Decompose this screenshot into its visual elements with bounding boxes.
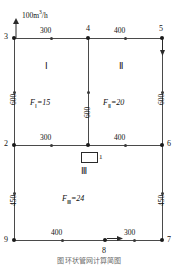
length-label-center-upper: 600 [84,107,92,118]
length-label-top-right: 400 [114,27,125,35]
node-6 [160,143,164,147]
node-label-4: 4 [86,25,90,33]
pump-symbol [81,152,98,163]
length-label-left-upper: 600 [10,94,18,105]
pipe-tick-top-left [50,37,53,40]
loop-flow-value-3: FⅢ=24 [62,194,84,207]
length-label-bottom-right: 300 [124,229,135,237]
figure-caption: 图 环状管网计算简图 [0,257,178,266]
outflow-arrow-node-5 [158,40,167,56]
pipe-tick-center-upper [87,91,90,94]
node-label-7: 7 [167,236,171,244]
pump-label: 1 [99,154,103,161]
loop-flow-value-2: FⅡ=20 [103,98,124,111]
pipe-tick-bottom-right [133,239,136,242]
node-label-2: 2 [4,140,8,148]
loop-numeral-3: Ⅲ [81,167,87,176]
loop-numeral-1: Ⅰ [45,62,48,71]
pipe-5-6-7-right [162,38,163,240]
node-label-6: 6 [167,140,171,148]
node-4 [86,36,90,40]
length-label-middle-right: 400 [114,134,125,142]
loop-flow-value-1: FⅠ=15 [30,98,50,111]
pipe-tick-top-right [124,37,127,40]
pipe-tick-bottom-left [61,239,64,242]
outflow-arrow-node-8 [107,234,123,243]
length-label-left-lower: 450 [10,195,18,206]
pipe-network-diagram: 100m3/h 3 4 5 2 6 9 8 7 300 400 300 400 … [0,0,178,266]
node-label-8: 8 [102,247,106,255]
flow-unit-label: 100m3/h [22,8,48,20]
pipe-9-8-7-bottom [14,240,162,241]
pipe-3-2-9-left [14,38,15,240]
node-label-9: 9 [4,236,8,244]
node-1 [86,143,90,147]
length-label-right-lower: 450 [158,195,166,206]
length-label-right-upper: 600 [158,94,166,105]
node-9 [12,238,16,242]
loop-numeral-2: Ⅱ [119,62,123,71]
length-label-bottom-left: 400 [51,229,62,237]
node-label-5: 5 [159,25,163,33]
pipe-tick-middle-left [50,144,53,147]
node-label-3: 3 [4,33,8,41]
length-label-top-left: 300 [40,27,51,35]
pipe-tick-middle-right [124,144,127,147]
node-3 [12,36,16,40]
node-2 [12,143,16,147]
length-label-middle-left: 300 [40,134,51,142]
node-7 [160,238,164,242]
